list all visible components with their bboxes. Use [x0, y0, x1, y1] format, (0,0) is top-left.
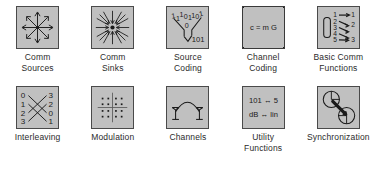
label-line-1: Comm [100, 52, 126, 63]
map-right-number: 1 [351, 11, 355, 18]
palette-item-comm-sources[interactable]: Comm Sources [0, 6, 75, 73]
label-line-2: Coding [174, 63, 202, 74]
palette-item-label: Source Coding [174, 52, 202, 73]
label-line-1: Comm [21, 52, 53, 63]
label-line-2: Coding [247, 63, 280, 74]
formula-text: c = m G [250, 23, 277, 32]
label-line-1: Basic Comm [314, 52, 364, 63]
selection-handle-top-left[interactable] [242, 6, 244, 8]
block-library-palette: Comm Sources [0, 0, 376, 169]
interleaving-glyph: 0 1 2 3 3 2 0 1 [17, 87, 58, 128]
basic-comm-functions-glyph: 1 2 3 4 5 1 2 3 [318, 7, 359, 48]
selection-handle-bottom-right[interactable] [283, 47, 285, 49]
channel-coding-formula-icon[interactable]: c = m G [242, 6, 285, 49]
palette-item-label: Channels [169, 132, 206, 143]
radiating-arrows-icon[interactable] [16, 6, 59, 49]
palette-item-utility-functions[interactable]: 101 ↔ 5 dB ↔ lin Utility Functions [226, 86, 301, 153]
map-left-number: 5 [333, 36, 337, 43]
palette-item-comm-sinks[interactable]: Comm Sinks [75, 6, 150, 73]
converging-arrows-glyph [92, 7, 133, 48]
label-line-2: Sinks [100, 63, 126, 74]
bit-glyph: 1 [199, 10, 204, 19]
palette-item-label: Comm Sinks [100, 52, 126, 73]
source-coding-glyph: 1 1 1 0 1 1 0 1 0 101 [167, 7, 208, 48]
palette-item-label: Modulation [91, 132, 134, 143]
palette-row-2: 0 1 2 3 3 2 0 1 [0, 86, 376, 153]
utility-functions-glyph: 101 ↔ 5 dB ↔ lin [243, 87, 284, 128]
palette-item-modulation[interactable]: Modulation [75, 86, 150, 153]
palette-item-synchronization[interactable]: Synchronization [301, 86, 376, 153]
palette-item-label: Synchronization [307, 132, 370, 143]
label-line-2: Sources [21, 63, 53, 74]
palette-item-source-coding[interactable]: 1 1 1 0 1 1 0 1 0 101 Source Coding [150, 6, 225, 73]
label-line-1: Modulation [91, 132, 134, 143]
interleaving-crossing-icon[interactable]: 0 1 2 3 3 2 0 1 [16, 86, 59, 129]
label-line-2: Functions [314, 63, 364, 74]
palette-item-basic-comm-functions[interactable]: 1 2 3 4 5 1 2 3 [301, 6, 376, 73]
palette-item-label: Basic Comm Functions [314, 52, 364, 73]
palette-item-interleaving[interactable]: 0 1 2 3 3 2 0 1 [0, 86, 75, 153]
source-coding-funnel-icon[interactable]: 1 1 1 0 1 1 0 1 0 101 [166, 6, 209, 49]
interleave-right-number: 1 [49, 117, 54, 126]
map-right-number: 2 [351, 21, 355, 28]
bit-glyph: 101 [192, 35, 205, 44]
label-line-1: Interleaving [15, 132, 61, 143]
synchronization-glyph [318, 87, 359, 128]
label-line-1: Utility [244, 132, 282, 143]
palette-item-label: Interleaving [15, 132, 61, 143]
label-line-2: Functions [244, 143, 282, 154]
channels-antenna-arc-icon[interactable] [166, 86, 209, 129]
palette-item-channels[interactable]: Channels [150, 86, 225, 153]
channels-glyph [167, 87, 208, 128]
basic-comm-functions-mapping-icon[interactable]: 1 2 3 4 5 1 2 3 [317, 6, 360, 49]
palette-item-label: Utility Functions [244, 132, 282, 153]
label-line-1: Source [174, 52, 202, 63]
conversion-line-1: 101 ↔ 5 [249, 96, 278, 105]
modulation-glyph [92, 87, 133, 128]
radiating-arrows-glyph [17, 7, 58, 48]
map-right-number: 3 [351, 36, 355, 43]
synchronization-clocks-icon[interactable] [317, 86, 360, 129]
conversion-line-2: dB ↔ lin [249, 110, 278, 119]
channel-coding-glyph: c = m G [243, 7, 284, 48]
bit-glyph: 0 [185, 22, 189, 30]
modulation-constellation-icon[interactable] [91, 86, 134, 129]
converging-arrows-icon[interactable] [91, 6, 134, 49]
label-line-1: Synchronization [307, 132, 370, 143]
palette-item-label: Channel Coding [247, 52, 280, 73]
selection-handle-bottom-left[interactable] [242, 47, 244, 49]
palette-row-1: Comm Sources [0, 6, 376, 73]
palette-item-channel-coding[interactable]: c = m G Channel Coding [226, 6, 301, 73]
label-line-1: Channel [247, 52, 280, 63]
selection-handle-top-right[interactable] [283, 6, 285, 8]
label-line-1: Channels [169, 132, 206, 143]
palette-item-label: Comm Sources [21, 52, 53, 73]
utility-functions-conversion-icon[interactable]: 101 ↔ 5 dB ↔ lin [242, 86, 285, 129]
interleave-left-number: 3 [21, 117, 26, 126]
